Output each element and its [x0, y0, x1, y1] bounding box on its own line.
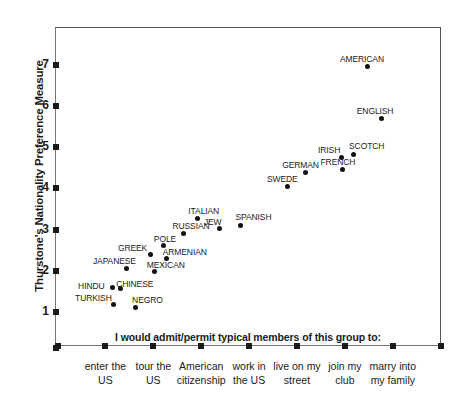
y-tick	[53, 309, 59, 315]
data-point-label: FRENCH	[321, 157, 356, 167]
x-tick	[294, 343, 300, 349]
x-tick	[55, 343, 61, 349]
data-point	[351, 152, 356, 157]
x-tick-label: marry intomy family	[350, 360, 436, 387]
data-point	[133, 305, 138, 310]
x-tick	[390, 343, 396, 349]
x-tick	[198, 343, 204, 349]
data-point-label: CHINESE	[116, 279, 153, 289]
data-point-label: MEXICAN	[147, 260, 185, 270]
data-point-label: GERMAN	[282, 160, 319, 170]
y-tick	[53, 62, 59, 68]
data-point-label: ARMENIAN	[163, 247, 207, 257]
data-point	[110, 285, 115, 290]
data-point	[238, 223, 243, 228]
data-point-label: POLE	[154, 234, 176, 244]
data-point	[195, 216, 200, 221]
y-tick-label: 7	[34, 57, 49, 71]
data-point-label: ITALIAN	[188, 206, 219, 216]
y-tick-label: 1	[34, 304, 49, 318]
data-point-label: AMERICAN	[340, 54, 384, 64]
y-tick	[53, 227, 59, 233]
data-point	[181, 231, 186, 236]
data-point-label: JAPANESE	[93, 256, 136, 266]
data-point-label: GREEK	[118, 243, 147, 253]
data-point-label: JEW	[204, 217, 222, 227]
y-tick	[53, 268, 59, 274]
data-point	[303, 170, 308, 175]
data-point-label: IRISH	[318, 145, 340, 155]
data-point-label: SCOTCH	[349, 141, 384, 151]
data-point-label: NEGRO	[132, 295, 163, 305]
data-point	[365, 64, 370, 69]
data-point-label: SPANISH	[235, 212, 271, 222]
y-tick-label: 6	[34, 98, 49, 112]
data-point-label: TURKISH	[75, 293, 112, 303]
data-point-label: SWEDE	[267, 174, 298, 184]
plot-frame	[55, 27, 441, 346]
data-point-label: HINDU	[78, 281, 104, 291]
x-tick	[102, 343, 108, 349]
y-tick-label: 2	[34, 263, 49, 277]
y-tick	[53, 103, 59, 109]
x-tick	[342, 343, 348, 349]
data-point	[340, 167, 345, 172]
x-tick	[150, 343, 156, 349]
plot-caption: I would admit/permit typical members of …	[55, 331, 441, 343]
y-tick-label: 5	[34, 139, 49, 153]
y-tick	[53, 144, 59, 150]
scatter-chart: Thurstone's Nationality Preference Measu…	[0, 0, 467, 411]
data-point	[339, 155, 344, 160]
x-tick-label-line2: my family	[350, 374, 436, 388]
data-point-label: ENGLISH	[357, 106, 394, 116]
y-tick	[53, 185, 59, 191]
x-tick-label-line1: marry into	[350, 360, 436, 374]
x-tick	[246, 343, 252, 349]
x-tick	[438, 343, 444, 349]
y-tick-label: 4	[34, 180, 49, 194]
y-tick-label: 3	[34, 222, 49, 236]
